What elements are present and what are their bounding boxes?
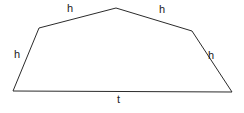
edge-label-h-right: h xyxy=(208,50,214,61)
geometry-figure: h h h h t xyxy=(0,0,244,113)
edge-label-h-upper-left: h xyxy=(67,3,73,14)
edge-label-t-base: t xyxy=(117,94,120,105)
edge-label-h-upper-right: h xyxy=(159,4,165,15)
hexagon-outline xyxy=(13,8,232,92)
edge-label-h-left: h xyxy=(14,49,20,60)
